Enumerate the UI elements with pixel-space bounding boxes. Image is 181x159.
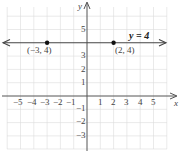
y-tick: −1 [76, 104, 86, 113]
x-tick: 3 [124, 98, 129, 107]
x-tick: 1 [98, 98, 103, 107]
x-tick: 4 [138, 98, 143, 107]
y-tick: 3 [81, 51, 86, 60]
x-tick: −4 [27, 98, 37, 107]
y-tick: 1 [81, 78, 86, 87]
y-tick: −3 [76, 131, 86, 140]
point-label-a: (−3, 4) [27, 46, 52, 55]
y-tick: 2 [81, 65, 86, 74]
y-tick: 5 [81, 25, 86, 34]
x-tick: −5 [13, 98, 23, 107]
x-tick: 5 [151, 98, 156, 107]
y-axis-label: y [78, 2, 82, 11]
x-tick: −2 [53, 98, 63, 107]
x-tick: −1 [66, 98, 76, 107]
x-tick: 2 [111, 98, 116, 107]
coordinate-plane [0, 0, 181, 159]
x-tick: −3 [40, 98, 50, 107]
y-tick: −2 [76, 117, 86, 126]
point-label-b: (2, 4) [115, 46, 135, 55]
equation-label: y = 4 [129, 31, 149, 41]
x-axis-label: x [174, 99, 178, 108]
